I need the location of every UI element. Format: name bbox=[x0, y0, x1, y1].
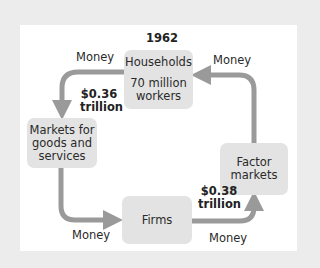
households-workers-line2: workers bbox=[136, 90, 181, 103]
money-label-factor-households: Money bbox=[213, 53, 251, 67]
markets-goods-line2: goods and bbox=[32, 137, 92, 150]
firms-label: Firms bbox=[142, 214, 173, 227]
money-label-goods-firms: Money bbox=[72, 228, 110, 242]
money-label-firms-factor: Money bbox=[209, 231, 247, 245]
arrow-goods-markets-to-firms bbox=[61, 168, 113, 220]
arrow-factor-markets-to-households bbox=[201, 75, 254, 143]
markets-goods-line1: Markets for bbox=[30, 124, 95, 137]
households-label: Households bbox=[125, 56, 192, 69]
amount-firms-factor: $0.38 trillion bbox=[198, 185, 240, 211]
factor-markets-line2: markets bbox=[231, 169, 278, 182]
amount-households-goods: $0.36 trillion bbox=[80, 88, 118, 114]
node-firms: Firms bbox=[122, 196, 192, 244]
diagram-title: 1962 bbox=[146, 31, 178, 45]
money-label-households-goods: Money bbox=[76, 50, 114, 64]
node-markets-goods-services: Markets for goods and services bbox=[27, 118, 97, 168]
markets-goods-line3: services bbox=[38, 150, 85, 163]
node-households: Households 70 million workers bbox=[124, 50, 193, 109]
